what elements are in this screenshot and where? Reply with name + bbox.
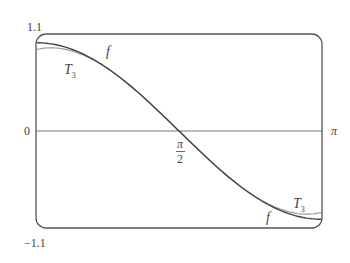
label-t3-upper: T3 [64,63,76,80]
x-tick-half-pi-den: 2 [177,152,183,166]
y-tick-zero: 0 [24,125,30,137]
label-f-lower: f [266,211,270,225]
label-t3-lower-sub: 3 [301,205,305,214]
label-t3-upper-main: T [64,62,72,77]
label-f-upper: f [106,45,110,59]
label-t3-lower: T3 [293,197,305,214]
y-tick-bottom: −1.1 [24,237,46,249]
plot-area [0,0,350,263]
label-t3-upper-sub: 3 [72,71,76,80]
x-tick-half-pi-num: π [177,137,183,151]
y-tick-top: 1.1 [27,21,42,33]
label-t3-lower-main: T [293,196,301,211]
x-tick-half-pi: π 2 [173,138,187,165]
x-tick-pi: π [331,125,337,137]
